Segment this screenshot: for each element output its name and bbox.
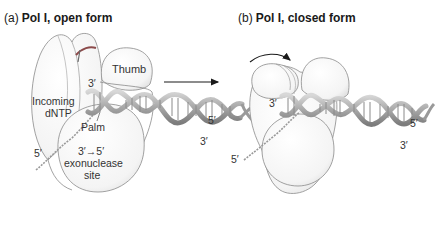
label-palm: Palm [81,122,105,133]
label-end-5prime-a: 5′ [208,115,216,126]
label-end-5prime-b: 5′ [410,118,418,129]
label-end-3prime-b: 3′ [400,140,408,151]
label-end-3prime-a: 3′ [200,136,208,147]
label-incoming-line2: dNTP [45,108,72,119]
rotation-arrow [250,54,290,62]
label-exo-line3: site [84,170,100,181]
label-incoming-line1: Incoming [32,96,75,107]
label-exo-line1: 3′→5′ [78,146,104,157]
label-template-5prime-b: 5′ [231,154,239,165]
label-template-5prime-a: 5′ [34,148,42,159]
panel-b-closed-form [244,54,434,193]
fingers-domain-b [252,64,299,99]
exonuclease-domain-b [262,114,334,186]
label-primer-3prime-a: 3′ [88,78,96,89]
label-primer-3prime-b: 3′ [269,98,277,109]
label-exo-line2: exonuclease [64,158,123,169]
label-thumb: Thumb [112,64,146,75]
